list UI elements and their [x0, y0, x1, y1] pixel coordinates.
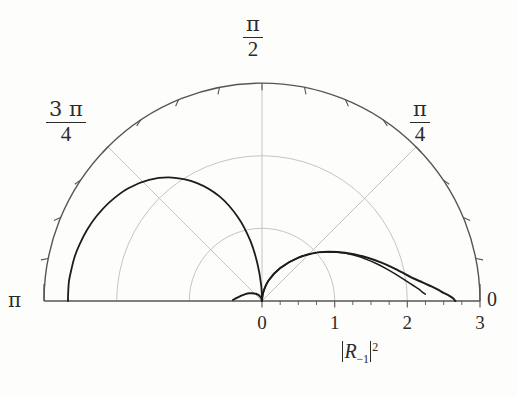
angular-label-3pi-over-4: 3 π 4 — [46, 99, 86, 146]
angular-label-pi-over-2-denominator: 2 — [243, 37, 263, 61]
radial-tick-label-2: 2 — [403, 312, 413, 334]
radial-tick-label-1: 1 — [330, 312, 340, 334]
data-curve-right-branch-outer — [262, 252, 455, 301]
polar-plot-figure: π 2 3 π 4 π 4 π 0 0 1 2 3 R−12 — [0, 0, 517, 396]
radial-axis-ticks — [262, 301, 480, 308]
angular-label-pi-over-2-numerator: π — [243, 14, 263, 37]
angular-label-pi: π — [8, 290, 21, 310]
angular-label-pi-over-4: π 4 — [410, 99, 430, 146]
angular-label-zero: 0 — [487, 289, 497, 309]
grid-spokes — [108, 83, 416, 301]
data-curve-left-branch-upper — [68, 177, 262, 301]
axis-title-symbol: R — [344, 340, 356, 362]
axis-title-subscript: −1 — [357, 352, 369, 366]
axis-title-right-bar — [370, 341, 371, 362]
radial-tick-label-0: 0 — [257, 312, 267, 334]
radial-axis-title: R−12 — [341, 340, 378, 367]
angular-label-3pi-over-4-denominator: 4 — [46, 122, 86, 146]
angular-label-3pi-over-4-numerator: 3 π — [46, 99, 86, 122]
angular-label-pi-over-2: π 2 — [243, 14, 263, 61]
grid-spoke-pi-4 — [262, 147, 416, 301]
angular-label-pi-over-4-denominator: 4 — [410, 122, 430, 146]
grid-spoke-3pi-4 — [108, 147, 262, 301]
angular-label-pi-over-4-numerator: π — [410, 99, 430, 122]
radial-tick-label-3: 3 — [475, 312, 485, 334]
axis-title-superscript: 2 — [372, 340, 378, 354]
